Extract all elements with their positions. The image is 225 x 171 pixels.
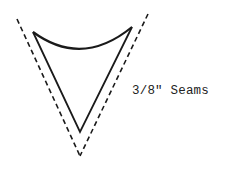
seam-allowance-label: 3/8" Seams — [132, 84, 209, 98]
cut-line-left — [17, 19, 80, 156]
stitch-line-top-curve — [33, 27, 132, 49]
